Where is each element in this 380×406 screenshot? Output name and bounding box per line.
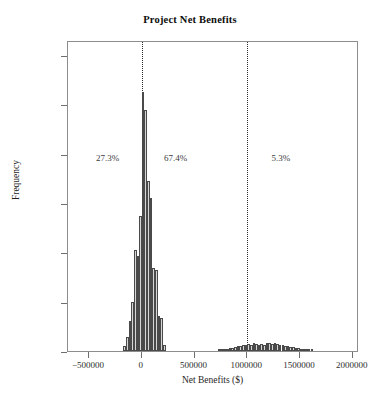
y-tick-mark (61, 352, 67, 353)
histogram-bars (68, 42, 357, 351)
x-tick-mark (246, 352, 247, 358)
x-tick-mark (194, 352, 195, 358)
y-tick-mark (61, 105, 67, 106)
y-axis-label: Frequency (11, 120, 21, 240)
plot-area: 27.3%67.4%5.3% (67, 41, 358, 352)
x-tick-mark (352, 352, 353, 358)
pct-middle: 67.4% (164, 153, 187, 163)
chart-figure: Project Net Benefits 27.3%67.4%5.3% 0200… (0, 0, 380, 406)
pct-left: 27.3% (96, 153, 119, 163)
y-tick-mark (61, 204, 67, 205)
x-tick-label: 1000000 (230, 360, 262, 370)
x-tick-mark (88, 352, 89, 358)
y-tick-mark (61, 56, 67, 57)
x-tick-mark (299, 352, 300, 358)
chart-title: Project Net Benefits (0, 14, 380, 25)
x-tick-label: −500000 (72, 360, 104, 370)
x-tick-label: 0 (139, 360, 144, 370)
histogram-bar (163, 345, 166, 351)
x-tick-label: 500000 (180, 360, 207, 370)
pct-right: 5.3% (272, 153, 291, 163)
y-tick-mark (61, 155, 67, 156)
y-tick-mark (61, 303, 67, 304)
x-tick-label: 1500000 (283, 360, 315, 370)
x-tick-label: 2000000 (336, 360, 368, 370)
y-tick-mark (61, 253, 67, 254)
histogram-bar (311, 349, 314, 351)
x-tick-mark (141, 352, 142, 358)
x-axis-label: Net Benefits ($) (67, 375, 358, 385)
